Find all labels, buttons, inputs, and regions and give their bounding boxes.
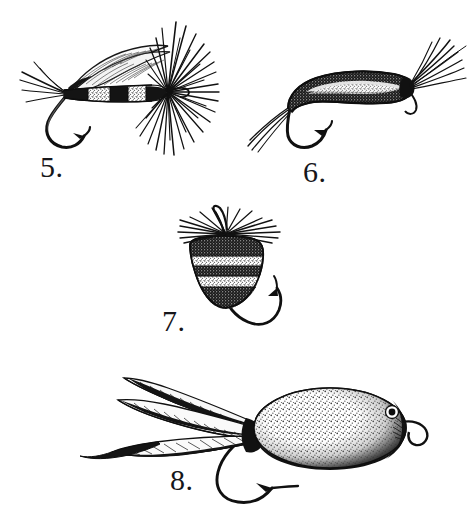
illustration-plate: 5. 6. 7. 8.: [0, 0, 475, 531]
figure-label-7: 7.: [162, 306, 186, 336]
fig8-cork-body: [252, 386, 410, 472]
fig6-hook: [287, 108, 332, 148]
figure-label-5: 5.: [40, 152, 64, 182]
fig6-tail-fibers: [248, 108, 290, 152]
fig6-swept-hackle: [410, 38, 466, 89]
fig5-tail-fibers: [20, 62, 66, 102]
figure-label-8: 8.: [170, 465, 194, 495]
fig8-eye: [386, 406, 399, 419]
fig7-bee-body: [190, 236, 263, 309]
fig5-hook: [47, 96, 90, 147]
figure-6-group: [248, 38, 466, 152]
fig6-curved-body: [288, 71, 412, 112]
figure-5-group: [20, 22, 219, 155]
figure-8-group: [80, 378, 427, 502]
fig8-feather-tail: [80, 378, 264, 459]
figure-label-6: 6.: [303, 157, 327, 187]
figure-5-drawing: [0, 0, 475, 531]
figure-7-group: [178, 206, 281, 325]
